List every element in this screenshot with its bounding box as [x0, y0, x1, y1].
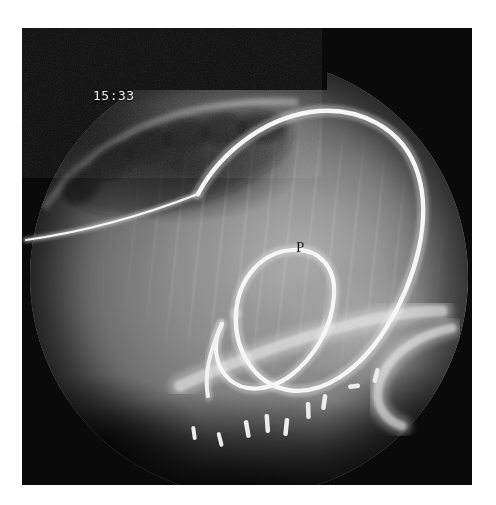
radiograph-plate: 15:33 P [22, 28, 472, 485]
collimator-mask [22, 28, 327, 90]
anatomic-marker-label: P [296, 240, 304, 255]
page-root: 15:33 P [0, 0, 496, 505]
fluoroscopy-field-wrapper [22, 28, 472, 485]
fluoroscopy-field-of-view [30, 58, 468, 485]
timestamp-overlay: 15:33 [93, 88, 135, 103]
field-vignette [30, 58, 468, 485]
